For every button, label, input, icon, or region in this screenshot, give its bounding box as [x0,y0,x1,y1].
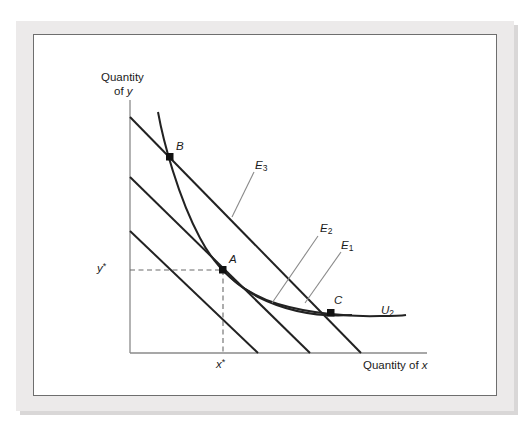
budget-line-label-e2-base: E [320,222,328,234]
x-star-label: x* [216,357,225,371]
x-axis-label: Quantity of x [363,358,428,372]
y-star-sup: * [103,261,107,271]
y-star-label: y* [97,261,106,275]
budget-line-label-e2-sub: 2 [328,226,333,236]
x-star-sup: * [222,357,226,367]
y-axis-label: Quantity of y [101,70,144,99]
x-axis-label-variable: x [422,359,428,371]
indifference-curve-u2 [218,264,406,316]
budget-line-label-e1-base: E [341,239,349,251]
y-axis-label-line2-of: of [114,85,127,97]
leader-line-e3 [232,172,254,217]
curve-label-u2: U2 [381,303,394,317]
y-axis-label-line1: Quantity [101,71,144,83]
budget-line-label-e3-base: E [255,159,263,171]
curve-label-u2-sub: 2 [389,308,394,318]
point-marker-b [166,153,174,161]
y-axis-label-variable: y [127,85,133,97]
budget-line-label-e1-sub: 1 [349,243,354,253]
point-marker-a [219,266,227,274]
budget-line-e1 [130,231,258,353]
x-star-base: x [216,358,222,370]
figure-graphics [0,0,530,428]
budget-line-label-e2: E2 [320,221,332,235]
figure-page: Quantity of y Quantity of x B A C E3 E2 … [0,0,530,428]
y-star-base: y [97,262,103,274]
point-label-c: C [334,293,342,307]
x-axis-label-text: Quantity of [363,359,422,371]
point-label-a: A [229,252,237,266]
budget-line-label-e3: E3 [255,158,267,172]
point-marker-c [327,309,335,317]
budget-line-label-e1: E1 [341,238,353,252]
budget-line-label-e3-sub: 3 [263,163,268,173]
point-label-b: B [176,139,184,153]
